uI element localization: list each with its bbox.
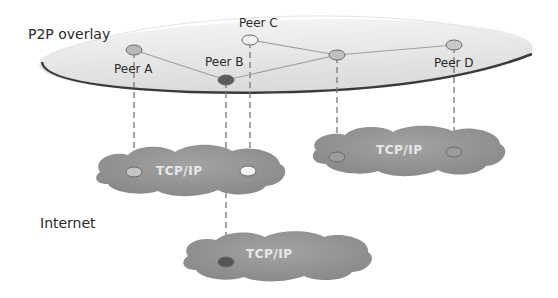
- peer-a-node: [126, 45, 142, 55]
- tcp-node-x: [329, 152, 345, 162]
- peer-c-label: Peer C: [239, 16, 278, 30]
- cloud-bottom-label: TCP/IP: [246, 247, 292, 261]
- peer-b-node: [218, 75, 234, 85]
- peer-c-node: [242, 35, 258, 45]
- cloud-left-label: TCP/IP: [156, 164, 202, 178]
- cloud-right-label: TCP/IP: [376, 143, 422, 157]
- tcp-node-a: [126, 167, 142, 177]
- overlay-title: P2P overlay: [28, 26, 110, 42]
- peer-a-label: Peer A: [114, 62, 153, 76]
- tcp-node-b: [218, 257, 234, 267]
- peer-d-label: Peer D: [434, 56, 474, 70]
- peer-b-label: Peer B: [205, 55, 244, 69]
- peer-d-node: [446, 40, 462, 50]
- internet-label: Internet: [40, 215, 96, 231]
- tcp-node-d: [446, 147, 462, 157]
- tcp-node-c: [240, 166, 256, 176]
- peer-x-node: [329, 50, 345, 60]
